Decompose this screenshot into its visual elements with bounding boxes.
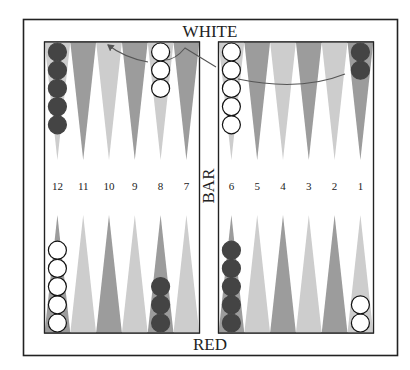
white-checker[interactable] [222,116,240,134]
point-number-5: 5 [254,180,260,192]
white-checker[interactable] [48,296,66,314]
right-board-frame [219,42,374,333]
point-number-2: 2 [332,180,338,192]
point-number-11: 11 [78,180,89,192]
red-checker[interactable] [222,314,240,332]
white-checker[interactable] [222,43,240,61]
right-board: 654321 [219,42,374,333]
red-checker[interactable] [48,43,66,61]
point-number-7: 7 [184,180,190,192]
white-checker[interactable] [222,61,240,79]
red-checker[interactable] [48,61,66,79]
red-checker[interactable] [152,296,170,314]
point-number-3: 3 [306,180,312,192]
red-checker[interactable] [48,116,66,134]
left-board-frame [45,42,200,333]
white-checker[interactable] [152,79,170,97]
white-checker[interactable] [48,241,66,259]
point-number-10: 10 [104,180,116,192]
white-checker[interactable] [48,278,66,296]
top-label-white: WHITE [183,22,238,41]
point-number-12: 12 [52,180,63,192]
white-checker[interactable] [48,259,66,277]
white-checker[interactable] [222,98,240,116]
point-number-8: 8 [158,180,164,192]
white-checker[interactable] [48,314,66,332]
bottom-label-red: RED [193,335,227,354]
bar-label: BAR [199,168,218,204]
red-checker[interactable] [152,278,170,296]
red-checker[interactable] [48,79,66,97]
red-checker[interactable] [152,314,170,332]
white-checker[interactable] [222,79,240,97]
point-number-9: 9 [132,180,138,192]
red-checker[interactable] [222,296,240,314]
left-board: 121110987 [45,42,200,333]
point-number-1: 1 [358,180,364,192]
red-checker[interactable] [351,43,369,61]
white-checker[interactable] [351,296,369,314]
white-checker[interactable] [351,314,369,332]
white-checker[interactable] [152,43,170,61]
point-number-4: 4 [280,180,286,192]
point-number-6: 6 [229,180,235,192]
red-checker[interactable] [222,259,240,277]
red-checker[interactable] [351,61,369,79]
white-checker[interactable] [152,61,170,79]
red-checker[interactable] [222,241,240,259]
red-checker[interactable] [48,98,66,116]
backgammon-board-diagram: WHITE RED 121110987 654321 BAR [0,0,410,370]
red-checker[interactable] [222,278,240,296]
